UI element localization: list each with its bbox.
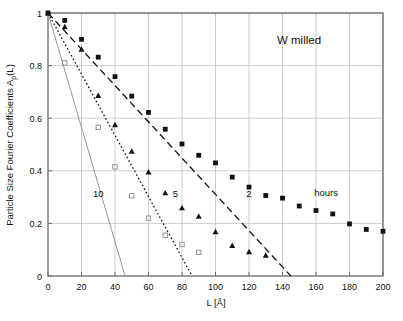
data-point-5-hours [146, 169, 152, 174]
series-label-5-hours: 5 [173, 188, 178, 199]
x-tick-label: 200 [375, 282, 390, 292]
particle-size-fourier-coefficients-chart: 02040608010012014016018020000.20.40.60.8… [0, 0, 403, 321]
x-tick-label: 40 [110, 282, 120, 292]
data-point-2-hours [230, 175, 235, 180]
data-point-2-hours [79, 37, 84, 42]
data-point-2-hours [347, 222, 352, 227]
panel-title: W milled [277, 34, 321, 46]
data-point-5-hours [112, 122, 118, 127]
x-axis-title: L [Å] [206, 297, 225, 308]
data-point-5-hours [162, 190, 168, 195]
data-point-2-hours [314, 208, 319, 213]
y-tick-label: 0.4 [29, 166, 42, 176]
y-tick-label: 0.2 [29, 219, 42, 229]
data-point-2-hours [364, 227, 369, 232]
data-point-5-hours [263, 252, 269, 257]
data-point-10-hours [96, 125, 100, 129]
data-point-2-hours [129, 94, 134, 99]
x-tick-label: 60 [143, 282, 153, 292]
data-point-10-hours [163, 233, 167, 237]
y-axis-title: Particle Size Fourier Coefficients Ap(L) [4, 64, 18, 226]
data-point-5-hours [95, 93, 101, 98]
fit-line-10-hours [48, 13, 125, 276]
data-point-5-hours [246, 249, 252, 254]
grid-lines [48, 13, 383, 276]
data-point-2-hours [146, 110, 151, 115]
data-point-2-hours [381, 229, 386, 234]
data-point-2-hours [96, 55, 101, 60]
data-point-10-hours [130, 194, 134, 198]
data-point-5-hours [196, 213, 202, 218]
series-label-10-hours: 10 [93, 188, 104, 199]
y-tick-label: 0 [37, 272, 42, 282]
series-fit-lines [48, 13, 291, 276]
x-tick-label: 160 [308, 282, 323, 292]
series-label-2-hours: 2 [246, 188, 251, 199]
x-tick-label: 120 [241, 282, 256, 292]
data-point-2-hours [180, 142, 185, 147]
x-tick-label: 180 [342, 282, 357, 292]
x-tick-label: 140 [275, 282, 290, 292]
data-point-2-hours [62, 18, 67, 23]
data-point-2-hours [330, 212, 335, 217]
data-point-2-hours [263, 193, 268, 198]
data-point-2-hours [163, 127, 168, 132]
y-tick-label: 0.6 [29, 114, 42, 124]
fit-line-2-hours [48, 13, 291, 276]
data-point-5-hours [213, 229, 219, 234]
data-point-2-hours [297, 204, 302, 209]
y-tick-label: 1 [37, 9, 42, 19]
data-point-5-hours [129, 148, 135, 153]
data-point-10-hours [197, 250, 201, 254]
units-label-hours: hours [314, 187, 338, 198]
y-tick-label: 0.8 [29, 61, 42, 71]
data-point-5-hours [62, 24, 68, 29]
fit-line-5-hours [48, 13, 192, 276]
data-point-5-hours [229, 242, 235, 247]
data-point-5-hours [179, 205, 185, 210]
data-point-2-hours [280, 196, 285, 201]
data-point-2-hours [196, 153, 201, 158]
x-tick-label: 80 [177, 282, 187, 292]
x-tick-label: 20 [76, 282, 86, 292]
x-tick-label: 100 [208, 282, 223, 292]
chart-figure: 02040608010012014016018020000.20.40.60.8… [0, 0, 403, 321]
x-tick-label: 0 [45, 282, 50, 292]
data-point-2-hours [213, 161, 218, 166]
data-point-2-hours [113, 74, 118, 79]
